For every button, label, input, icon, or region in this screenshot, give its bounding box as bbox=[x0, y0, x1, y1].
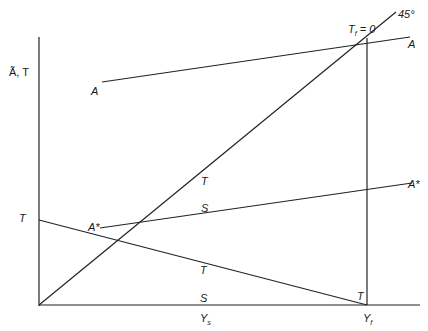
t-upper-label: T bbox=[201, 175, 209, 187]
t-corner-label: T bbox=[357, 290, 365, 302]
degree-label: 45° bbox=[398, 8, 415, 20]
t-left-label: T bbox=[19, 212, 27, 224]
s-upper-label: S bbox=[201, 202, 209, 214]
a-star-line bbox=[100, 183, 412, 228]
diagram-canvas: Ã, T A A A* A* T Tf = 0 45° T S T S T Ys… bbox=[0, 0, 428, 331]
y-axis-label: Ã, T bbox=[9, 66, 29, 78]
t-lower-label: T bbox=[200, 264, 208, 276]
yf-label: Yf bbox=[363, 312, 373, 326]
45-degree-line bbox=[39, 12, 396, 305]
a-left-label: A bbox=[90, 85, 98, 97]
ys-label: Ys bbox=[200, 312, 211, 326]
a-star-right-label: A* bbox=[407, 178, 420, 190]
a-line bbox=[102, 37, 410, 82]
tf-zero-label: Tf = 0 bbox=[348, 23, 376, 37]
s-lower-label: S bbox=[200, 292, 208, 304]
a-right-label: A bbox=[407, 38, 415, 50]
a-star-left-label: A* bbox=[87, 221, 100, 233]
